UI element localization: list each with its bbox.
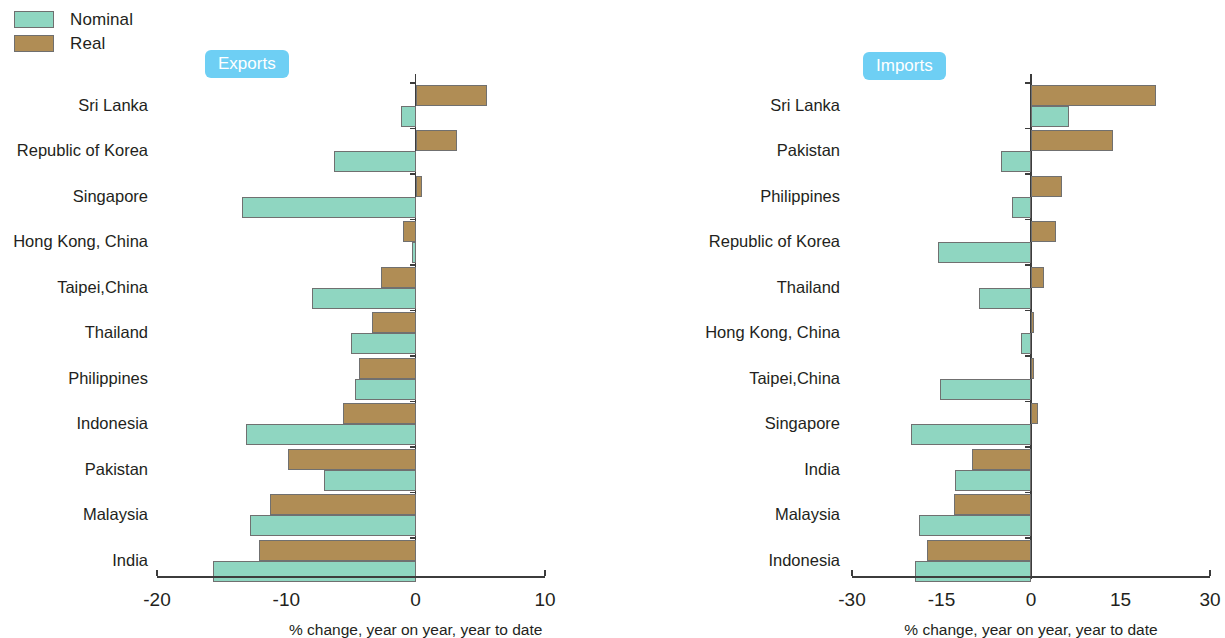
bar-nominal bbox=[334, 151, 415, 172]
x-tick-label: 0 bbox=[991, 590, 1071, 609]
bar-real bbox=[416, 85, 487, 106]
bar-real bbox=[403, 221, 416, 242]
bar-nominal bbox=[1012, 197, 1031, 218]
x-tick-label: -10 bbox=[246, 590, 326, 609]
x-axis-title: % change, year on year, year to date bbox=[781, 622, 1225, 638]
bar-real bbox=[381, 267, 416, 288]
bar-real bbox=[1031, 130, 1113, 151]
axis-tick bbox=[410, 446, 416, 448]
axis-tick bbox=[410, 310, 416, 312]
bar-real bbox=[359, 358, 416, 379]
category-label: Hong Kong, China bbox=[705, 324, 840, 341]
axis-tick bbox=[410, 355, 416, 357]
axis-tick bbox=[410, 219, 416, 221]
imports-plot: Sri LankaPakistanPhilippinesRepublic of … bbox=[613, 0, 1225, 638]
bar-real bbox=[1031, 312, 1034, 333]
x-axis-cap bbox=[1209, 570, 1211, 576]
category-label: Pakistan bbox=[777, 142, 840, 159]
axis-tick bbox=[410, 128, 416, 130]
category-label: Malaysia bbox=[83, 506, 148, 523]
category-label: Indonesia bbox=[768, 552, 840, 569]
bar-real bbox=[1031, 85, 1156, 106]
x-tick-label: -20 bbox=[117, 590, 197, 609]
category-label: Republic of Korea bbox=[709, 233, 840, 250]
x-tick-label: 10 bbox=[505, 590, 585, 609]
bar-nominal bbox=[915, 561, 1031, 582]
bar-nominal bbox=[919, 515, 1031, 536]
bar-nominal bbox=[1031, 106, 1069, 127]
axis-tick bbox=[1025, 537, 1031, 539]
bar-nominal bbox=[979, 288, 1031, 309]
category-label: Taipei,China bbox=[749, 370, 840, 387]
category-label: Singapore bbox=[73, 188, 148, 205]
bar-nominal bbox=[401, 106, 415, 127]
axis-tick bbox=[1025, 219, 1031, 221]
x-tick-label: -30 bbox=[812, 590, 892, 609]
category-label: Republic of Korea bbox=[17, 142, 148, 159]
bar-nominal bbox=[213, 561, 416, 582]
axis-tick bbox=[1025, 355, 1031, 357]
bar-nominal bbox=[242, 197, 415, 218]
category-label: Singapore bbox=[765, 415, 840, 432]
bar-nominal bbox=[955, 470, 1031, 491]
bar-real bbox=[416, 176, 422, 197]
bar-real bbox=[927, 540, 1031, 561]
category-label: Pakistan bbox=[85, 461, 148, 478]
exports-panel: Sri LankaRepublic of KoreaSingaporeHong … bbox=[0, 0, 612, 638]
bar-real bbox=[954, 494, 1031, 515]
category-label: Philippines bbox=[760, 188, 840, 205]
bar-real bbox=[1031, 358, 1034, 379]
bar-nominal bbox=[324, 470, 416, 491]
bar-nominal bbox=[940, 379, 1031, 400]
x-tick-label: -15 bbox=[902, 590, 982, 609]
category-label: Indonesia bbox=[76, 415, 148, 432]
bar-nominal bbox=[412, 242, 416, 263]
x-tick-label: 15 bbox=[1081, 590, 1161, 609]
bar-real bbox=[343, 403, 415, 424]
bar-nominal bbox=[1001, 151, 1031, 172]
bar-real bbox=[972, 449, 1031, 470]
axis-tick bbox=[410, 492, 416, 494]
x-axis-cap bbox=[544, 570, 546, 576]
axis-tick bbox=[410, 82, 416, 84]
x-axis-line bbox=[157, 576, 545, 578]
x-axis-title: % change, year on year, year to date bbox=[166, 622, 666, 638]
axis-tick bbox=[1025, 401, 1031, 403]
exports-badge: Exports bbox=[205, 50, 289, 78]
imports-panel: Sri LankaPakistanPhilippinesRepublic of … bbox=[613, 0, 1225, 638]
bar-nominal bbox=[938, 242, 1031, 263]
axis-tick bbox=[1025, 446, 1031, 448]
axis-tick bbox=[410, 264, 416, 266]
axis-tick bbox=[410, 173, 416, 175]
bar-real bbox=[1031, 403, 1038, 424]
category-label: Hong Kong, China bbox=[13, 233, 148, 250]
axis-tick bbox=[1025, 492, 1031, 494]
bar-nominal bbox=[351, 333, 416, 354]
category-label: Thailand bbox=[777, 279, 840, 296]
category-label: Taipei,China bbox=[57, 279, 148, 296]
x-axis-cap bbox=[851, 570, 853, 576]
x-tick-label: 30 bbox=[1170, 590, 1225, 609]
axis-tick bbox=[410, 401, 416, 403]
bar-real bbox=[372, 312, 416, 333]
bar-nominal bbox=[355, 379, 416, 400]
bar-real bbox=[1031, 267, 1044, 288]
axis-tick bbox=[1025, 264, 1031, 266]
bar-nominal bbox=[312, 288, 415, 309]
bar-real bbox=[1031, 221, 1056, 242]
category-label: Malaysia bbox=[775, 506, 840, 523]
bar-nominal bbox=[250, 515, 416, 536]
bar-nominal bbox=[911, 424, 1031, 445]
x-axis-line bbox=[852, 576, 1210, 578]
axis-tick bbox=[1025, 310, 1031, 312]
x-tick-label: 0 bbox=[376, 590, 456, 609]
bar-real bbox=[1031, 176, 1062, 197]
axis-tick bbox=[1025, 82, 1031, 84]
bar-real bbox=[288, 449, 416, 470]
category-label: Sri Lanka bbox=[78, 97, 148, 114]
exports-plot: Sri LankaRepublic of KoreaSingaporeHong … bbox=[0, 0, 612, 638]
bar-real bbox=[259, 540, 415, 561]
imports-badge: Imports bbox=[863, 52, 946, 80]
category-label: Sri Lanka bbox=[770, 97, 840, 114]
category-label: India bbox=[804, 461, 840, 478]
